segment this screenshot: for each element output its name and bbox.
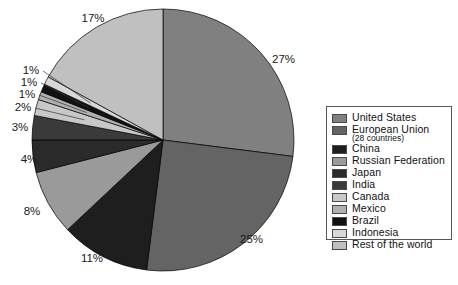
legend-item-label: Canada xyxy=(352,191,389,202)
chart-legend: United StatesEuropean Union(28 countries… xyxy=(326,106,452,240)
legend-item[interactable]: Rest of the world xyxy=(332,239,447,250)
legend-item-label: Indonesia xyxy=(352,227,398,238)
pie-value-label: 27% xyxy=(272,53,295,65)
legend-text-wrap: Russian Federation xyxy=(352,155,445,166)
pie-chart-figure: 27%25%11%8%4%3%2%1%1%1%17% United States… xyxy=(0,0,458,285)
pie-slice[interactable] xyxy=(147,140,293,271)
pie-value-label: 8% xyxy=(24,205,41,217)
pie-value-label: 1% xyxy=(21,76,38,88)
legend-item-label: Japan xyxy=(352,167,381,178)
legend-color-swatch xyxy=(332,114,347,123)
legend-color-swatch xyxy=(332,205,347,214)
legend-item[interactable]: European Union(28 countries) xyxy=(332,124,447,142)
legend-color-swatch xyxy=(332,157,347,166)
legend-item[interactable]: Canada xyxy=(332,191,447,202)
legend-text-wrap: Indonesia xyxy=(352,227,398,238)
legend-item-label: India xyxy=(352,179,375,190)
legend-item[interactable]: Brazil xyxy=(332,215,447,226)
pie-value-label: 11% xyxy=(81,252,103,264)
legend-color-swatch xyxy=(332,126,347,135)
pie-value-label: 1% xyxy=(23,64,40,76)
legend-text-wrap: United States xyxy=(352,112,416,123)
legend-item[interactable]: Indonesia xyxy=(332,227,447,238)
pie-value-label: 4% xyxy=(21,153,38,165)
pie-value-label: 17% xyxy=(81,12,104,24)
legend-text-wrap: European Union(28 countries) xyxy=(352,124,429,142)
legend-item[interactable]: Russian Federation xyxy=(332,155,447,166)
legend-color-swatch xyxy=(332,145,347,154)
pie-slice[interactable] xyxy=(163,9,294,156)
legend-item-label: Mexico xyxy=(352,203,386,214)
legend-item[interactable]: Mexico xyxy=(332,203,447,214)
legend-color-swatch xyxy=(332,169,347,178)
legend-item-label: China xyxy=(352,143,380,154)
legend-text-wrap: Canada xyxy=(352,191,389,202)
pie-value-label: 25% xyxy=(240,233,263,245)
legend-item-label: Brazil xyxy=(352,215,379,226)
legend-color-swatch xyxy=(332,241,347,250)
legend-text-wrap: China xyxy=(352,143,380,154)
legend-color-swatch xyxy=(332,193,347,202)
legend-color-swatch xyxy=(332,229,347,238)
pie-value-label: 1% xyxy=(19,88,36,100)
legend-text-wrap: Mexico xyxy=(352,203,386,214)
legend-item-label: Rest of the world xyxy=(352,239,433,250)
legend-item-label: United States xyxy=(352,112,416,123)
legend-color-swatch xyxy=(332,181,347,190)
pie-chart-canvas: 27%25%11%8%4%3%2%1%1%1%17% xyxy=(0,0,330,285)
pie-slices-group xyxy=(32,9,294,271)
legend-text-wrap: Rest of the world xyxy=(352,239,433,250)
legend-text-wrap: India xyxy=(352,179,375,190)
pie-value-label: 3% xyxy=(12,121,29,133)
legend-item-sublabel: (28 countries) xyxy=(352,134,429,143)
legend-item[interactable]: Japan xyxy=(332,167,447,178)
legend-item[interactable]: India xyxy=(332,179,447,190)
legend-item-label: Russian Federation xyxy=(352,155,445,166)
legend-text-wrap: Brazil xyxy=(352,215,379,226)
legend-item[interactable]: United States xyxy=(332,112,447,123)
legend-text-wrap: Japan xyxy=(352,167,381,178)
legend-color-swatch xyxy=(332,217,347,226)
legend-item[interactable]: China xyxy=(332,143,447,154)
pie-value-label: 2% xyxy=(15,101,32,113)
